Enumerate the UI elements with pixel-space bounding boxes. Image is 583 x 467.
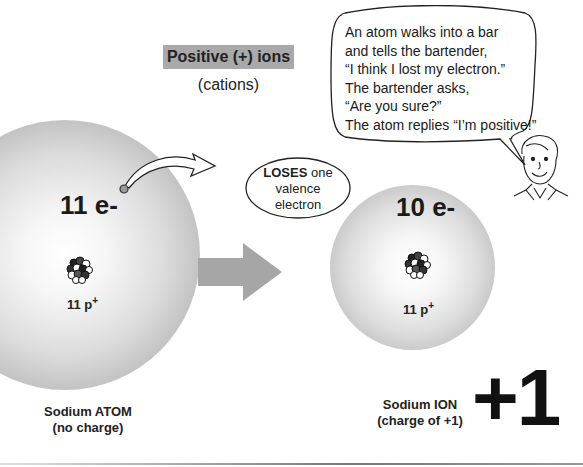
transition-arrow-icon xyxy=(198,243,284,303)
joke-text: An atom walks into a bar and tells the b… xyxy=(345,23,536,134)
ion-charge-value: +1 xyxy=(472,358,559,438)
section-title: Positive (+) ions xyxy=(163,45,294,69)
atom-nucleus-icon xyxy=(64,255,94,285)
section-subtitle: (cations) xyxy=(163,76,294,94)
atom-proton-count: 11 p+ xyxy=(67,295,98,312)
atom-caption: Sodium ATOM (no charge) xyxy=(18,404,158,436)
bottom-divider xyxy=(0,463,583,465)
ion-electron-count: 10 e- xyxy=(396,192,455,223)
ion-nucleus-icon xyxy=(402,250,432,280)
electron-leaving-arrow-icon xyxy=(115,150,225,195)
loses-callout-text: LOSES one valence electron xyxy=(258,165,338,213)
valence-electron-icon xyxy=(118,183,130,195)
ion-proton-count: 11 p+ xyxy=(403,300,434,317)
ion-caption: Sodium ION (charge of +1) xyxy=(370,397,470,429)
cartoon-person-icon xyxy=(512,132,572,204)
atom-electron-count: 11 e- xyxy=(60,190,118,221)
